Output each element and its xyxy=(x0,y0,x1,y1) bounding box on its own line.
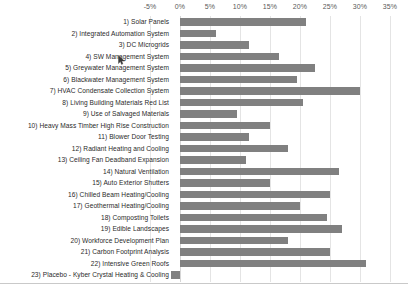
bar-track xyxy=(0,28,408,40)
chart-row: 10) Heavy Mass Timber High Rise Construc… xyxy=(0,120,408,132)
bar xyxy=(180,202,300,210)
chart-row: 11) Blower Door Testing xyxy=(0,131,408,143)
bar-track xyxy=(0,62,408,74)
bar-track xyxy=(0,200,408,212)
x-axis-tick-label: 35% xyxy=(383,3,397,10)
bar xyxy=(180,53,279,61)
bar-track xyxy=(0,177,408,189)
x-axis-tick-label: 5% xyxy=(205,3,215,10)
bar-track xyxy=(0,212,408,224)
chart-row: 18) Composting Toilets xyxy=(0,212,408,224)
chart-row: 8) Living Building Materials Red List xyxy=(0,97,408,109)
bar-track xyxy=(0,39,408,51)
chart-row: 15) Auto Exterior Shutters xyxy=(0,177,408,189)
bar xyxy=(180,64,315,72)
chart-rows: 1) Solar Panels2) Integrated Automation … xyxy=(0,16,408,281)
bar xyxy=(180,30,216,38)
bar-track xyxy=(0,16,408,28)
chart-row: 22) Intensive Green Roofs xyxy=(0,258,408,270)
bar xyxy=(180,225,342,233)
horizontal-bar-chart: -5%0%5%10%15%20%25%30%35% 1) Solar Panel… xyxy=(0,0,408,296)
chart-row: 4) SW Management System xyxy=(0,51,408,63)
x-axis-tick-label: 15% xyxy=(263,3,277,10)
bar xyxy=(180,41,249,49)
bar xyxy=(180,133,249,141)
bar xyxy=(180,122,270,130)
x-axis-tick-label: 10% xyxy=(233,3,247,10)
chart-row: 5) Greywater Management System xyxy=(0,62,408,74)
x-axis-tick-label: 25% xyxy=(323,3,337,10)
bar-track xyxy=(0,131,408,143)
bar-track xyxy=(0,269,408,281)
bar-track xyxy=(0,189,408,201)
bar-track xyxy=(0,120,408,132)
bar-track xyxy=(0,258,408,270)
chart-row: 13) Ceiling Fan Deadband Expansion xyxy=(0,154,408,166)
bar-track xyxy=(0,246,408,258)
bar xyxy=(180,18,306,26)
x-axis-tick-label: 30% xyxy=(353,3,367,10)
bar-track xyxy=(0,154,408,166)
x-axis-tick-label: 0% xyxy=(175,3,185,10)
bar xyxy=(180,110,237,118)
bar-track xyxy=(0,235,408,247)
bar xyxy=(180,76,297,84)
chart-row: 23) Placebo - Kyber Crystal Heating & Co… xyxy=(0,269,408,281)
bar-track xyxy=(0,97,408,109)
bar-track xyxy=(0,74,408,86)
bar xyxy=(180,145,288,153)
chart-row: 2) Integrated Automation System xyxy=(0,28,408,40)
x-axis-tick-label: 20% xyxy=(293,3,307,10)
chart-row: 3) DC Microgrids xyxy=(0,39,408,51)
bar xyxy=(180,214,327,222)
bar xyxy=(180,156,246,164)
bar xyxy=(171,271,180,279)
chart-row: 7) HVAC Condensate Collection System xyxy=(0,85,408,97)
bar-track xyxy=(0,85,408,97)
bar-track xyxy=(0,166,408,178)
bar xyxy=(180,260,366,268)
bar-track xyxy=(0,223,408,235)
chart-row: 17) Geothermal Heating/Cooling xyxy=(0,200,408,212)
bar xyxy=(180,87,360,95)
bar-track xyxy=(0,143,408,155)
axis-baseline xyxy=(0,283,408,284)
chart-row: 14) Natural Ventilation xyxy=(0,166,408,178)
bar xyxy=(180,99,303,107)
x-axis-tick-label: -5% xyxy=(144,3,157,10)
chart-row: 16) Chilled Beam Heating/Cooling xyxy=(0,189,408,201)
bar xyxy=(180,237,288,245)
chart-row: 19) Edible Landscapes xyxy=(0,223,408,235)
bar xyxy=(180,191,330,199)
bar-track xyxy=(0,51,408,63)
chart-row: 1) Solar Panels xyxy=(0,16,408,28)
chart-row: 21) Carbon Footprint Analysis xyxy=(0,246,408,258)
chart-row: 9) Use of Salvaged Materials xyxy=(0,108,408,120)
bar xyxy=(180,168,339,176)
bar-track xyxy=(0,108,408,120)
bar xyxy=(180,248,330,256)
chart-row: 20) Workforce Development Plan xyxy=(0,235,408,247)
chart-row: 6) Blackwater Management System xyxy=(0,74,408,86)
bar xyxy=(180,179,270,187)
chart-row: 12) Radiant Heating and Cooling xyxy=(0,143,408,155)
